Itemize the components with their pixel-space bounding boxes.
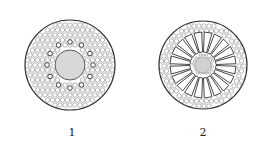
figure-label-2: 2: [200, 126, 207, 139]
vascular-bundle: [88, 51, 93, 56]
vascular-bundle: [79, 43, 84, 48]
vascular-bundle: [56, 43, 61, 48]
figure-2-stele: [195, 57, 211, 73]
vascular-bundle: [91, 63, 96, 68]
vascular-bundle: [48, 51, 53, 56]
vascular-bundle: [79, 83, 84, 88]
vascular-bundle: [48, 74, 53, 79]
figure-label-1: 1: [69, 126, 76, 139]
diagram-canvas: [0, 0, 266, 150]
vascular-bundle: [56, 83, 61, 88]
figure-1-pith: [55, 50, 85, 80]
vascular-bundle: [88, 74, 93, 79]
vascular-bundle: [68, 86, 73, 91]
vascular-bundle: [45, 63, 50, 68]
vascular-bundle: [68, 40, 73, 45]
